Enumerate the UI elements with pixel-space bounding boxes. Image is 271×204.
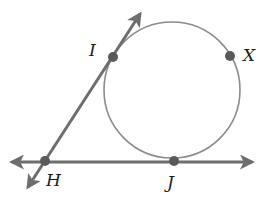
label-j: J <box>167 174 174 191</box>
point-x <box>225 51 235 61</box>
label-h: H <box>46 172 61 189</box>
circle <box>104 22 240 158</box>
geometry-diagram: I X J H <box>0 0 271 204</box>
point-j <box>169 156 179 166</box>
point-i <box>108 52 118 62</box>
point-h <box>40 156 50 166</box>
label-x: X <box>243 47 255 64</box>
label-i: I <box>89 42 96 59</box>
diagram-canvas <box>0 0 271 204</box>
